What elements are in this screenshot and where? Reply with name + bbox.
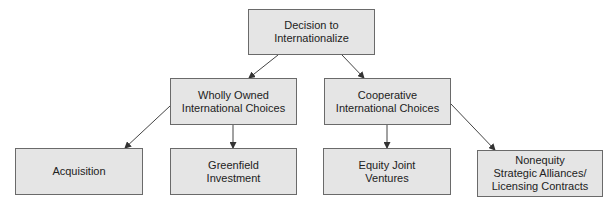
edge-coop-nonequity <box>451 104 495 150</box>
node-label: Greenfield Investment <box>207 159 261 185</box>
node-label: Cooperative International Choices <box>336 89 439 115</box>
node-equity-joint-ventures: Equity Joint Ventures <box>323 148 451 195</box>
node-wholly-owned: Wholly Owned International Choices <box>170 78 297 125</box>
node-cooperative: Cooperative International Choices <box>324 78 451 125</box>
edge-root-wholly <box>249 55 278 78</box>
node-decision-to-internationalize: Decision to Internationalize <box>248 9 375 55</box>
node-greenfield-investment: Greenfield Investment <box>170 148 297 195</box>
edge-wholly-acq <box>125 106 170 148</box>
node-label: Acquisition <box>52 165 105 178</box>
node-nonequity-alliances: Nonequity Strategic Alliances/ Licensing… <box>477 150 603 197</box>
node-acquisition: Acquisition <box>15 148 143 195</box>
edge-root-coop <box>342 55 364 78</box>
node-label: Decision to Internationalize <box>274 19 349 45</box>
node-label: Equity Joint Ventures <box>359 159 416 185</box>
node-label: Nonequity Strategic Alliances/ Licensing… <box>492 154 589 193</box>
node-label: Wholly Owned International Choices <box>182 89 285 115</box>
